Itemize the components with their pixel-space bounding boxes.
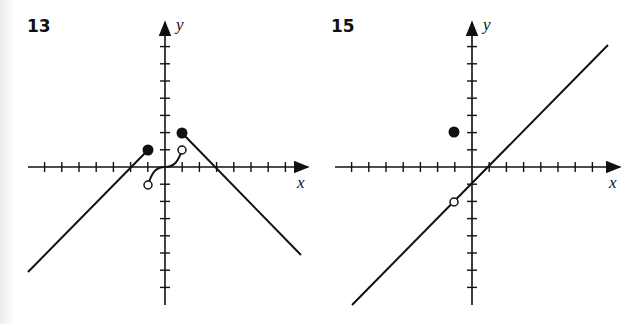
left-ray bbox=[28, 150, 148, 272]
x-axis-label: x bbox=[296, 173, 305, 192]
y-axis-label: y bbox=[481, 15, 491, 34]
graphs-canvas: y x y x bbox=[0, 0, 641, 324]
open-point bbox=[144, 181, 152, 189]
open-point bbox=[450, 198, 458, 206]
closed-point bbox=[144, 146, 153, 155]
open-point bbox=[178, 146, 186, 154]
y-axis-label: y bbox=[174, 15, 184, 34]
x-axis-label: x bbox=[608, 173, 617, 192]
graph-15 bbox=[335, 22, 620, 305]
line-y-equals-x-minus-1 bbox=[352, 45, 608, 305]
closed-point bbox=[450, 128, 459, 137]
graph-13 bbox=[28, 22, 308, 305]
closed-point bbox=[178, 129, 187, 138]
right-ray bbox=[182, 133, 301, 255]
